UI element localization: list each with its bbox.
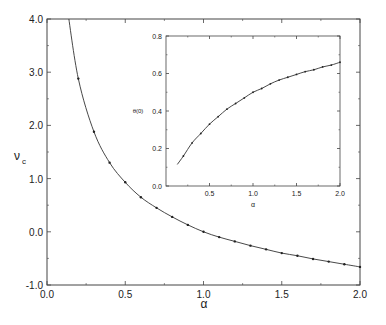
inset-data-point bbox=[339, 61, 341, 63]
main-data-point bbox=[249, 244, 251, 246]
inset-ytick-label: 0.4 bbox=[152, 108, 162, 115]
main-xtick-label: 0.5 bbox=[118, 289, 132, 300]
inset-data-point bbox=[209, 123, 211, 125]
inset-data-point bbox=[226, 108, 228, 110]
figure: 0.00.51.01.52.0-1.00.01.02.03.04.0ανc0.5… bbox=[0, 0, 386, 325]
main-ytick-label: 0.0 bbox=[29, 227, 43, 238]
inset-data-point bbox=[261, 88, 263, 90]
main-data-point bbox=[171, 216, 173, 218]
main-ytick-label: 4.0 bbox=[29, 14, 43, 25]
inset-data-point bbox=[287, 76, 289, 78]
inset-y-axis-label: θ(0) bbox=[133, 108, 144, 114]
main-ytick-label: -1.0 bbox=[26, 280, 44, 291]
main-data-point bbox=[281, 252, 283, 254]
main-y-axis-label: ν bbox=[14, 149, 20, 163]
inset-xtick-label: 0.5 bbox=[205, 190, 215, 197]
inset-data-point bbox=[304, 71, 306, 73]
inset-x-axis-label: α bbox=[251, 201, 255, 208]
main-data-point bbox=[140, 196, 142, 198]
inset-data-point bbox=[270, 83, 272, 85]
inset-data-point bbox=[183, 155, 185, 157]
main-xtick-label: 2.0 bbox=[353, 289, 367, 300]
inset-data-point bbox=[278, 79, 280, 81]
main-data-point bbox=[187, 224, 189, 226]
main-data-point bbox=[234, 240, 236, 242]
main-data-point bbox=[343, 263, 345, 265]
main-data-point bbox=[108, 161, 110, 163]
inset-data-point bbox=[235, 103, 237, 105]
main-ytick-label: 2.0 bbox=[29, 120, 43, 131]
inset-ytick-label: 0.6 bbox=[152, 70, 162, 77]
inset-data-point bbox=[296, 74, 298, 76]
inset-data-point bbox=[191, 142, 193, 144]
main-xtick-label: 1.5 bbox=[275, 289, 289, 300]
main-data-point bbox=[265, 248, 267, 250]
main-y-axis-label-subscript: c bbox=[22, 157, 26, 166]
inset-xtick-label: 1.0 bbox=[248, 190, 258, 197]
main-data-point bbox=[312, 258, 314, 260]
main-ytick-label: 1.0 bbox=[29, 174, 43, 185]
main-data-point bbox=[296, 255, 298, 257]
main-data-point bbox=[359, 266, 361, 268]
inset-xtick-label: 2.0 bbox=[335, 190, 345, 197]
inset-data-point bbox=[322, 66, 324, 68]
inset-ytick-label: 0.8 bbox=[152, 33, 162, 40]
chart-canvas: 0.00.51.01.52.0-1.00.01.02.03.04.0ανc0.5… bbox=[0, 0, 386, 325]
main-data-point bbox=[328, 260, 330, 262]
inset-data-point bbox=[243, 97, 245, 99]
inset-data-point bbox=[252, 91, 254, 93]
main-data-point bbox=[155, 207, 157, 209]
inset-xtick-label: 1.5 bbox=[292, 190, 302, 197]
inset-ytick-label: 0.0 bbox=[152, 183, 162, 190]
main-data-point bbox=[124, 181, 126, 183]
inset-data-point bbox=[313, 69, 315, 71]
main-x-axis-label: α bbox=[201, 297, 208, 311]
main-data-point bbox=[93, 131, 95, 133]
inset-data-point bbox=[330, 64, 332, 66]
inset-data-point bbox=[217, 116, 219, 118]
main-data-point bbox=[202, 231, 204, 233]
inset-frame bbox=[166, 36, 340, 186]
main-data-point bbox=[218, 236, 220, 238]
inset-data-point bbox=[200, 133, 202, 135]
main-ytick-label: 3.0 bbox=[29, 67, 43, 78]
main-data-point bbox=[77, 77, 79, 79]
inset-ytick-label: 0.2 bbox=[152, 145, 162, 152]
